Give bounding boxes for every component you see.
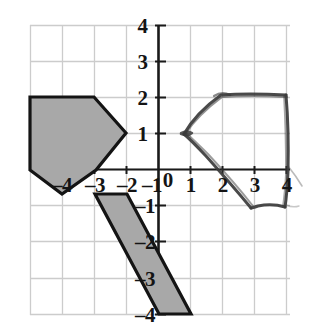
y-tick-label: 4 <box>138 14 149 38</box>
y-tick-label: –4 <box>134 303 156 327</box>
y-tick-label: –3 <box>134 267 155 291</box>
x-tick-label: –2 <box>116 173 137 197</box>
handdrawn-vertex-left <box>181 132 192 136</box>
y-tick-label: –1 <box>134 194 155 218</box>
y-tick-label: –2 <box>134 230 155 254</box>
origin-label: 0 <box>163 168 174 192</box>
x-tick-label: 3 <box>250 173 261 197</box>
x-tick-label: 2 <box>218 173 229 197</box>
x-tick-label: 1 <box>186 173 197 197</box>
x-tick-label: –3 <box>84 173 105 197</box>
graph-svg: –4 –3 –2 –1 0 1 2 3 4 4 3 2 1 –1 –2 –3 –… <box>0 0 312 329</box>
x-tick-label: –4 <box>51 173 73 197</box>
coordinate-plane-figure: –4 –3 –2 –1 0 1 2 3 4 4 3 2 1 –1 –2 –3 –… <box>0 0 312 329</box>
x-tick-label: 4 <box>282 173 293 197</box>
y-tick-label: 2 <box>138 86 149 110</box>
y-tick-label: 1 <box>138 122 149 146</box>
y-tick-label: 3 <box>138 50 149 74</box>
